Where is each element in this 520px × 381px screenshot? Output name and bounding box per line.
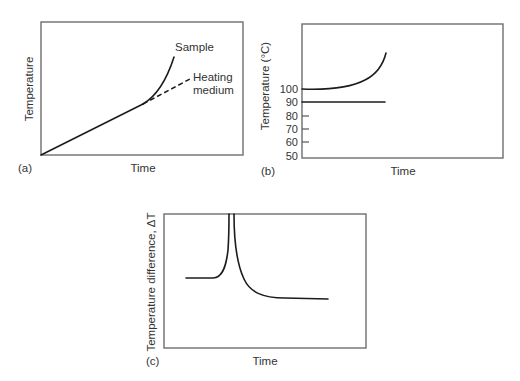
- tick-label-80: 80: [286, 110, 298, 122]
- panel-c-xlabel: Time: [252, 355, 277, 367]
- panel-a-medium-label: medium: [193, 84, 234, 96]
- panel-a-sample-label: Sample: [175, 41, 214, 53]
- panel-c-delta-t-curve: [186, 214, 328, 299]
- panel-a-tag: (a): [18, 162, 32, 174]
- panel-a-ylabel: Temperature: [23, 57, 35, 122]
- panel-b-sample-curve: [302, 53, 386, 89]
- tick-label-90: 90: [286, 96, 298, 108]
- panel-c-tag: (c): [146, 355, 160, 367]
- panel-b-ylabel: Temperature (°C): [259, 42, 271, 130]
- panel-a-heating-label: Heating: [193, 71, 233, 83]
- tick-label-60: 60: [286, 136, 298, 148]
- tick-label-100: 100: [280, 83, 298, 95]
- panel-c: Temperature difference, ΔT Time (c): [145, 212, 366, 367]
- panel-b-frame: [302, 24, 503, 158]
- panel-a-xlabel: Time: [130, 162, 155, 174]
- panel-a: Sample Heating medium Temperature Time (…: [18, 22, 243, 174]
- panel-a-common-line: [41, 104, 143, 155]
- panel-a-sample-curve: [143, 57, 174, 104]
- panel-c-frame: [164, 214, 366, 348]
- panel-b: 100 90 80 70 60 50 Temperature (°C) Time…: [259, 24, 503, 177]
- figure: Sample Heating medium Temperature Time (…: [0, 0, 520, 381]
- panel-b-tag: (b): [261, 165, 275, 177]
- tick-label-50: 50: [286, 150, 298, 162]
- panel-c-ylabel: Temperature difference, ΔT: [145, 212, 157, 351]
- tick-label-70: 70: [286, 123, 298, 135]
- panel-b-xlabel: Time: [390, 165, 415, 177]
- panel-a-heating-medium-dashed: [143, 79, 190, 104]
